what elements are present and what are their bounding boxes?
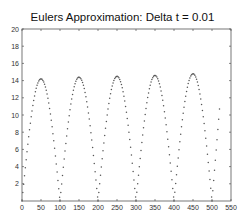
x-tick-label: 500 [206, 204, 218, 211]
x-tick-label: 550 [225, 204, 237, 211]
x-tick-label: 100 [54, 204, 66, 211]
y-tick-label: 6 [15, 146, 19, 153]
y-tick-label: 8 [15, 129, 19, 136]
x-tick-label: 250 [111, 204, 123, 211]
y-tick-label: 20 [11, 26, 19, 33]
chart-plot: 0501001502002503003504004505005502468101… [0, 0, 245, 218]
y-tick-label: 2 [15, 180, 19, 187]
x-tick-label: 450 [187, 204, 199, 211]
x-tick-label: 150 [73, 204, 85, 211]
y-tick-label: 14 [11, 77, 19, 84]
y-tick-label: 4 [15, 163, 19, 170]
plot-area [22, 29, 231, 201]
y-tick-label: 16 [11, 60, 19, 67]
y-tick-label: 12 [11, 94, 19, 101]
x-tick-label: 50 [37, 204, 45, 211]
x-tick-label: 350 [149, 204, 161, 211]
x-tick-label: 400 [168, 204, 180, 211]
x-tick-label: 0 [20, 204, 24, 211]
x-tick-label: 200 [92, 204, 104, 211]
x-tick-label: 300 [130, 204, 142, 211]
y-tick-label: 18 [11, 43, 19, 50]
y-tick-label: 10 [11, 112, 19, 119]
